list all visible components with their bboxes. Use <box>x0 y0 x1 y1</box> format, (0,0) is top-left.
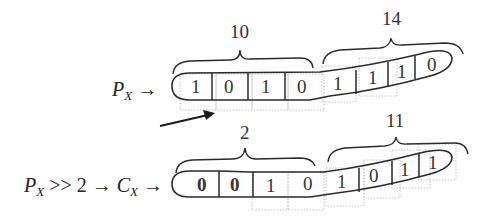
row2-bit-5: 0 <box>369 165 379 186</box>
row2-bit-1: 0 <box>230 174 240 195</box>
row2-bit-4: 1 <box>337 171 347 192</box>
row2-bit-2: 1 <box>266 175 276 196</box>
row1-bit-5: 1 <box>368 67 378 88</box>
row1-brace-left <box>173 50 313 74</box>
row1-bit-0: 1 <box>191 76 201 97</box>
row1-separators <box>212 56 415 100</box>
row1-bit-3: 0 <box>297 76 307 97</box>
row1-capsule <box>172 51 452 100</box>
row1-bit-1: 0 <box>224 76 234 97</box>
row2-bit-0: 0 <box>197 174 207 195</box>
row2-ghost-boxes <box>252 144 456 210</box>
row2-brace-left <box>176 148 315 173</box>
row1-bit-7: 0 <box>427 54 437 75</box>
row1-brace-left-label: 10 <box>230 21 249 42</box>
bit-diagram: 1 0 1 0 1 1 1 0 10 14 0 0 1 0 1 0 <box>0 0 492 218</box>
row2-bit-6: 1 <box>400 159 410 180</box>
row1-bit-6: 1 <box>397 61 407 82</box>
row2-brace-left-label: 2 <box>240 122 250 143</box>
row2-bit-3: 0 <box>303 173 313 194</box>
row1-bit-4: 1 <box>333 73 343 94</box>
row2-bit-7: 1 <box>428 152 438 173</box>
row1-brace-right-label: 14 <box>382 8 402 29</box>
row1-bit-2: 1 <box>261 76 271 97</box>
pointer-arrow-icon <box>160 110 215 126</box>
row2-brace-right-label: 11 <box>386 110 404 131</box>
